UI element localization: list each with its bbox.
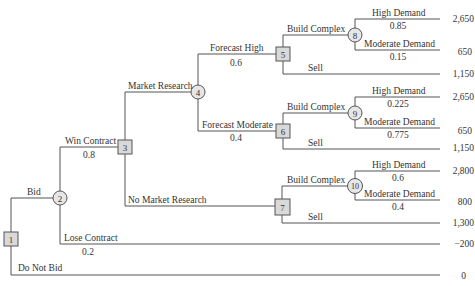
payoff-lose-contract: −200 (454, 239, 474, 249)
n10-mod-label: Moderate Demand (364, 189, 435, 199)
svg-text:4: 4 (196, 88, 201, 98)
n6-sell-branch (283, 138, 440, 149)
payoff-n8-mod: 650 (458, 47, 473, 57)
payoff-do-not-bid: 0 (461, 271, 466, 281)
node-3: 3 (118, 140, 132, 154)
n7-sell-label: Sell (308, 212, 323, 222)
forecast-moderate-label: Forecast Moderate (202, 120, 273, 130)
n5-sell-branch (283, 61, 440, 74)
n10-mod-prob: 0.4 (392, 202, 404, 212)
forecast-high-label: Forecast High (210, 43, 264, 53)
svg-text:7: 7 (280, 203, 285, 213)
n8-mod-prob: 0.15 (390, 52, 407, 62)
bid-branch (11, 198, 53, 232)
svg-text:10: 10 (351, 182, 359, 191)
n5-build-label: Build Complex (287, 24, 346, 34)
win-contract-label: Win Contract (65, 136, 116, 146)
node-4: 4 (191, 85, 205, 99)
do-not-bid-label: Do Not Bid (18, 263, 63, 273)
svg-text:6: 6 (281, 127, 286, 137)
n6-build-branch (283, 113, 348, 124)
market-research-branch (125, 92, 191, 140)
svg-text:2: 2 (58, 194, 63, 204)
node-8: 8 (348, 28, 362, 42)
decision-tree: 1 2 3 4 5 6 7 8 9 10 Bid Do Not Bid Win … (0, 0, 475, 286)
node-10: 10 (348, 179, 363, 194)
n6-build-label: Build Complex (287, 102, 346, 112)
payoff-n9-high: 2,650 (453, 92, 475, 102)
node-9: 9 (348, 106, 362, 120)
payoff-n10-mod: 800 (458, 197, 473, 207)
svg-text:8: 8 (353, 31, 358, 41)
node-5: 5 (276, 47, 290, 61)
svg-text:5: 5 (281, 50, 286, 60)
bid-label: Bid (27, 187, 41, 197)
forecast-moderate-prob: 0.4 (230, 133, 242, 143)
payoff-n5-sell: 1,150 (453, 69, 475, 79)
n6-sell-label: Sell (308, 138, 323, 148)
n9-mod-prob: 0.775 (387, 130, 409, 140)
n5-sell-label: Sell (308, 63, 323, 73)
n7-build-branch (282, 186, 348, 199)
do-not-bid-branch (11, 246, 440, 275)
svg-text:1: 1 (9, 235, 14, 245)
n10-high-label: High Demand (372, 160, 426, 170)
node-7: 7 (275, 199, 290, 215)
market-research-label: Market Research (128, 81, 193, 91)
payoff-n10-high: 2,800 (453, 166, 475, 176)
payoff-n8-high: 2,650 (453, 14, 475, 24)
n9-high-label: High Demand (372, 86, 426, 96)
svg-text:9: 9 (353, 109, 358, 119)
node-6: 6 (276, 124, 290, 138)
forecast-high-prob: 0.6 (230, 58, 242, 68)
node-1: 1 (4, 232, 18, 246)
payoff-n6-sell: 1,150 (453, 143, 475, 153)
n8-high-prob: 0.85 (390, 21, 407, 31)
no-market-research-label: No Market Research (128, 195, 207, 205)
n7-sell-branch (282, 215, 440, 223)
payoff-n9-mod: 650 (458, 126, 473, 136)
lose-contract-label: Lose Contract (64, 233, 118, 243)
n7-build-label: Build Complex (287, 175, 346, 185)
n9-mod-label: Moderate Demand (364, 117, 435, 127)
lose-contract-prob: 0.2 (82, 247, 94, 257)
n8-high-label: High Demand (372, 8, 426, 18)
payoff-n7-sell: 1,300 (453, 218, 475, 228)
node-2: 2 (53, 191, 67, 205)
n8-mod-label: Moderate Demand (364, 39, 435, 49)
n5-build-branch (283, 35, 348, 47)
win-contract-prob: 0.8 (83, 150, 95, 160)
svg-text:3: 3 (123, 143, 128, 153)
n10-high-prob: 0.6 (392, 173, 404, 183)
n9-high-prob: 0.225 (387, 99, 409, 109)
